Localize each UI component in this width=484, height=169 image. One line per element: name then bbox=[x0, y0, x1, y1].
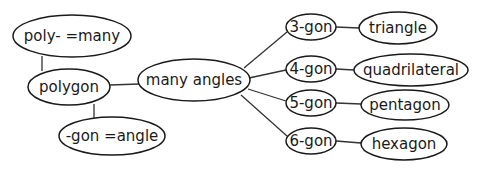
node-label: quadrilateral bbox=[363, 61, 459, 79]
node-hexagon: hexagon bbox=[361, 128, 447, 160]
edge-3gon-triangle bbox=[336, 27, 359, 28]
node-label: -gon =angle bbox=[66, 127, 159, 145]
node-many-angles: many angles bbox=[138, 59, 250, 101]
edge-4gon-quadrilateral bbox=[336, 69, 354, 70]
node-label: poly- =many bbox=[24, 27, 121, 45]
node-5-gon: 5-gon bbox=[286, 90, 336, 116]
concept-map: poly- =many polygon -gon =angle many ang… bbox=[0, 0, 484, 169]
edge-5gon-pentagon bbox=[336, 103, 361, 104]
edge-many-angles-4gon bbox=[249, 70, 286, 78]
node-poly-many: poly- =many bbox=[13, 15, 131, 57]
node-label: 5-gon bbox=[289, 94, 332, 112]
node-label: many angles bbox=[146, 71, 243, 89]
node-quadrilateral: quadrilateral bbox=[354, 54, 468, 86]
node-triangle: triangle bbox=[359, 12, 437, 44]
node-label: 6-gon bbox=[289, 132, 332, 150]
edge-many-angles-5gon bbox=[248, 89, 286, 101]
node-pentagon: pentagon bbox=[361, 90, 449, 120]
node-gon-angle: -gon =angle bbox=[59, 117, 165, 155]
edge-many-angles-6gon bbox=[241, 95, 287, 136]
node-label: hexagon bbox=[372, 135, 437, 153]
node-3-gon: 3-gon bbox=[286, 14, 336, 40]
edge-6gon-hexagon bbox=[336, 141, 361, 143]
node-4-gon: 4-gon bbox=[286, 56, 336, 82]
node-label: 3-gon bbox=[289, 18, 332, 36]
node-label: pentagon bbox=[369, 96, 441, 114]
node-label: polygon bbox=[39, 78, 99, 96]
node-label: 4-gon bbox=[289, 60, 332, 78]
node-polygon: polygon bbox=[28, 69, 110, 105]
edge-polygon-many-angles bbox=[110, 84, 139, 85]
node-label: triangle bbox=[369, 19, 427, 37]
edge-many-angles-3gon bbox=[244, 32, 287, 68]
node-6-gon: 6-gon bbox=[286, 128, 336, 154]
